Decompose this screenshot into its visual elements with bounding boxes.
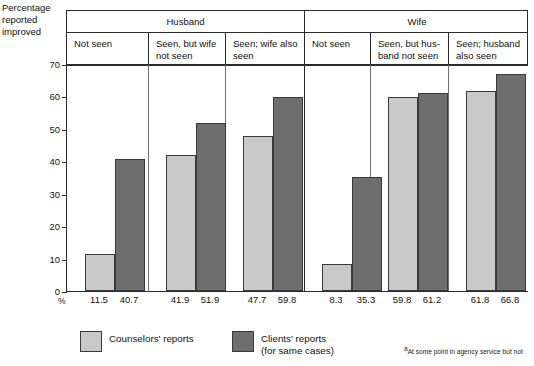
bar bbox=[322, 264, 352, 291]
y-axis-tick-label: 40 bbox=[34, 157, 60, 167]
footnote-text: At some point in agency service but not bbox=[408, 348, 523, 355]
legend-swatch-icon-counselors bbox=[80, 331, 102, 352]
y-axis-tick-label: 20 bbox=[34, 222, 60, 232]
chart-legend: Counselors' reports Clients' reports (fo… bbox=[80, 331, 400, 361]
legend-item-clients: Clients' reports (for same cases) bbox=[232, 331, 334, 356]
legend-label-counselors: Counselors' reports bbox=[109, 331, 194, 345]
y-axis-tick-label: 0 bbox=[34, 287, 60, 297]
bar bbox=[466, 91, 496, 291]
y-axis-tick-label: 60 bbox=[34, 92, 60, 102]
header-supergroup-husband: Husband bbox=[67, 11, 304, 32]
y-axis-title: Percentage reported improved bbox=[2, 2, 64, 39]
header-category-2: Seen; wife also seen bbox=[225, 33, 304, 64]
header-category-4: Seen, but hus-band not seen bbox=[370, 33, 448, 64]
footnote: aAt some point in agency service but not bbox=[404, 345, 534, 356]
y-axis-tick bbox=[62, 227, 67, 228]
bar-value-label: 51.9 bbox=[190, 294, 230, 305]
bar bbox=[85, 254, 115, 291]
bar bbox=[388, 97, 418, 291]
y-axis-tick-label: 30 bbox=[34, 190, 60, 200]
bar bbox=[196, 123, 226, 291]
bar bbox=[115, 159, 145, 291]
header-category-5: Seen; husband also seen bbox=[448, 33, 529, 64]
bar-value-label: 66.8 bbox=[490, 294, 530, 305]
y-axis-tick bbox=[62, 260, 67, 261]
header-supergroup-wife: Wife bbox=[304, 11, 529, 32]
bar bbox=[166, 155, 196, 291]
bar-value-label: 35.3 bbox=[346, 294, 386, 305]
legend-label-clients: Clients' reports (for same cases) bbox=[261, 331, 334, 356]
y-axis-tick-label: 70 bbox=[34, 60, 60, 70]
y-axis-tick-label: 10 bbox=[34, 255, 60, 265]
bar bbox=[418, 93, 448, 291]
plot-area bbox=[66, 65, 528, 292]
header-category-1: Seen, but wife not seen bbox=[148, 33, 225, 64]
category-header-table: Husband Wife Not seen Seen, but wife not… bbox=[66, 10, 528, 65]
header-category-0: Not seen bbox=[67, 33, 148, 64]
bar bbox=[352, 177, 382, 291]
legend-item-counselors: Counselors' reports bbox=[80, 331, 194, 352]
y-axis-tick bbox=[62, 162, 67, 163]
group-divider bbox=[448, 65, 449, 291]
legend-swatch-icon-clients bbox=[232, 331, 254, 352]
group-divider bbox=[304, 65, 305, 291]
percent-sign-label: % bbox=[58, 296, 66, 306]
bar bbox=[496, 74, 526, 291]
y-axis-tick bbox=[62, 130, 67, 131]
bar bbox=[273, 97, 303, 291]
header-category-row: Not seen Seen, but wife not seen Seen; w… bbox=[67, 33, 527, 64]
bar bbox=[243, 136, 273, 291]
header-category-3: Not seen bbox=[304, 33, 370, 64]
bar-value-label: 59.8 bbox=[267, 294, 307, 305]
y-axis-tick bbox=[62, 65, 67, 66]
y-axis-tick bbox=[62, 97, 67, 98]
bar-value-label: 40.7 bbox=[109, 294, 149, 305]
y-axis-tick-label: 50 bbox=[34, 125, 60, 135]
bar-value-label: 61.2 bbox=[412, 294, 452, 305]
group-divider bbox=[148, 65, 149, 291]
y-axis-tick bbox=[62, 292, 67, 293]
header-supergroup-row: Husband Wife bbox=[67, 11, 527, 33]
y-axis-tick-labels: 010203040506070 bbox=[30, 65, 60, 292]
bar-value-labels: 11.540.741.951.947.759.88.335.359.861.26… bbox=[66, 294, 528, 308]
y-axis-tick bbox=[62, 195, 67, 196]
